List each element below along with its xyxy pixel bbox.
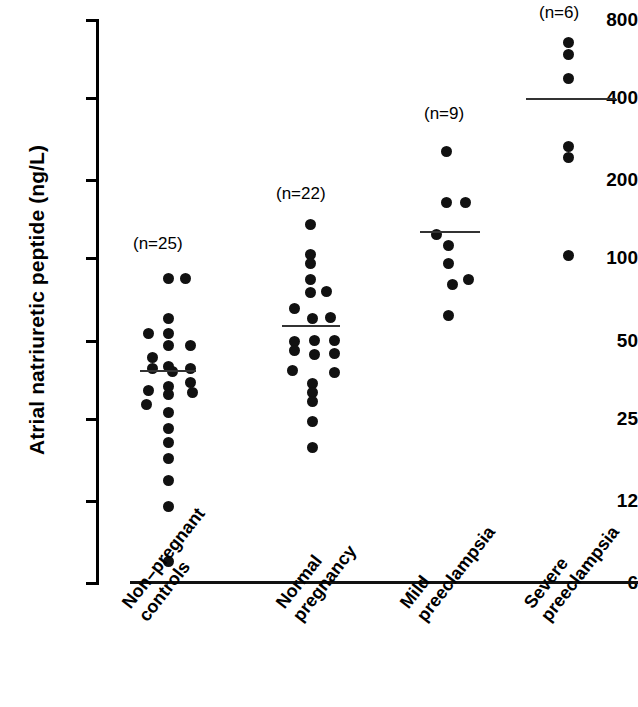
group-count-3: (n=9) <box>424 104 464 124</box>
data-point <box>289 303 300 314</box>
data-point <box>443 240 454 251</box>
data-point <box>307 416 318 427</box>
data-point <box>325 312 336 323</box>
data-point <box>441 146 452 157</box>
data-point <box>185 340 196 351</box>
data-point <box>441 197 452 208</box>
data-point <box>143 385 154 396</box>
data-point <box>287 365 298 376</box>
data-point <box>563 73 574 84</box>
group-mean-line <box>282 325 340 327</box>
group-count-2: (n=22) <box>276 184 326 204</box>
group-count-4: (n=6) <box>539 3 579 23</box>
data-point <box>443 258 454 269</box>
data-point <box>305 219 316 230</box>
data-point <box>180 273 191 284</box>
data-point <box>309 349 320 360</box>
data-point <box>563 37 574 48</box>
data-point <box>329 335 340 346</box>
data-point <box>163 340 174 351</box>
data-point <box>329 367 340 378</box>
chart-figure: Atrial natriuretic peptide (ng/L) 800 40… <box>0 0 638 707</box>
data-point <box>305 287 316 298</box>
group-mean-line <box>420 231 480 233</box>
data-point <box>563 250 574 261</box>
data-point <box>147 352 158 363</box>
data-point <box>460 197 471 208</box>
data-point <box>563 49 574 60</box>
data-point <box>163 313 174 324</box>
data-point <box>163 328 174 339</box>
data-point <box>305 274 316 285</box>
data-point <box>447 279 458 290</box>
data-point <box>307 396 318 407</box>
data-point <box>163 501 174 512</box>
data-point <box>143 328 154 339</box>
data-point <box>307 442 318 453</box>
data-point <box>187 387 198 398</box>
data-point <box>163 475 174 486</box>
data-point <box>309 335 320 346</box>
data-point <box>163 407 174 418</box>
data-point <box>329 348 340 359</box>
data-point <box>289 345 300 356</box>
data-point <box>305 258 316 269</box>
group-mean-line <box>526 98 616 100</box>
data-point <box>463 274 474 285</box>
data-point <box>321 286 332 297</box>
data-point <box>443 310 454 321</box>
data-point <box>141 399 152 410</box>
data-point <box>163 453 174 464</box>
data-point <box>163 389 174 400</box>
data-point <box>307 313 318 324</box>
data-point <box>163 423 174 434</box>
data-point <box>163 273 174 284</box>
group-count-1: (n=25) <box>133 234 183 254</box>
data-point <box>185 377 196 388</box>
data-point <box>563 152 574 163</box>
data-point <box>563 141 574 152</box>
data-point <box>163 437 174 448</box>
group-mean-line <box>140 370 196 372</box>
